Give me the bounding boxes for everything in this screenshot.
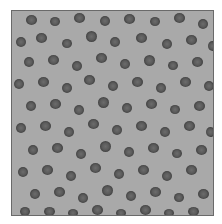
blood-cell	[28, 145, 38, 155]
blood-cell	[148, 143, 159, 153]
blood-cell	[140, 205, 151, 215]
blood-cell	[100, 16, 110, 26]
blood-cell	[126, 191, 136, 201]
blood-cell	[196, 145, 207, 155]
blood-cell	[102, 185, 113, 196]
blood-cell	[150, 17, 160, 26]
micrograph-image	[11, 10, 214, 216]
blood-cell	[188, 207, 199, 216]
blood-cell	[16, 37, 26, 47]
blood-cell	[44, 207, 55, 216]
blood-cell	[122, 103, 132, 113]
blood-cell	[78, 193, 88, 203]
blood-cell	[68, 209, 78, 216]
blood-cell	[146, 99, 157, 109]
blood-cell	[186, 35, 197, 45]
blood-cell	[160, 127, 170, 137]
blood-cell	[84, 75, 95, 85]
blood-cell	[14, 79, 24, 89]
blood-cell	[208, 41, 214, 51]
blood-cell	[20, 207, 30, 216]
blood-cell	[30, 189, 40, 199]
blood-cell	[174, 13, 185, 23]
blood-cell	[204, 81, 214, 91]
blood-cell	[74, 13, 85, 23]
blood-cell	[150, 187, 161, 197]
blood-cell	[66, 171, 76, 181]
blood-cell	[52, 143, 63, 153]
blood-cell	[170, 105, 180, 114]
blood-cell	[180, 77, 191, 87]
blood-cell	[174, 193, 184, 202]
blood-cell	[132, 77, 143, 87]
blood-cell	[38, 77, 49, 87]
blood-cell	[136, 121, 147, 131]
blood-cell	[62, 39, 72, 48]
blood-cell	[26, 101, 36, 111]
blood-cell	[198, 19, 208, 29]
blood-cell	[156, 83, 166, 93]
blood-cell	[16, 123, 26, 133]
blood-cell	[194, 101, 205, 111]
blood-cell	[112, 125, 122, 135]
blood-cell	[120, 59, 130, 69]
blood-cell	[116, 209, 126, 216]
blood-cell	[36, 33, 47, 43]
blood-cell	[54, 187, 65, 197]
blood-cell	[186, 165, 197, 175]
blood-cell	[90, 163, 101, 173]
blood-cell	[96, 53, 107, 63]
blood-cell	[76, 149, 86, 159]
blood-cell	[40, 121, 51, 131]
blood-cell	[124, 14, 135, 24]
blood-cell	[162, 39, 172, 49]
blood-cell	[42, 165, 53, 175]
blood-cell	[172, 149, 182, 158]
blood-cell	[72, 61, 82, 71]
blood-cell	[18, 167, 28, 177]
blood-cell	[206, 127, 214, 137]
blood-cell	[192, 57, 203, 67]
blood-cell	[50, 99, 61, 109]
blood-cell	[162, 171, 172, 181]
blood-cell	[144, 55, 155, 66]
blood-cell	[24, 57, 34, 67]
blood-cell	[184, 121, 195, 131]
blood-cell	[98, 97, 109, 108]
blood-cell	[136, 33, 147, 43]
blood-cell	[26, 15, 37, 25]
blood-cell	[114, 169, 124, 179]
blood-cell	[86, 31, 97, 42]
blood-cell	[198, 189, 209, 199]
blood-cell	[110, 37, 120, 47]
blood-cell	[100, 141, 111, 152]
blood-cell	[92, 205, 103, 215]
blood-cell	[164, 209, 174, 216]
blood-cell	[74, 105, 84, 115]
blood-cell	[88, 119, 99, 129]
blood-cell	[108, 81, 118, 91]
blood-cell	[50, 17, 60, 26]
blood-cell	[62, 83, 72, 93]
blood-cell	[168, 61, 178, 70]
blood-cell	[48, 55, 59, 65]
blood-cell	[138, 165, 149, 175]
blood-cell	[124, 147, 134, 157]
blood-cell	[64, 127, 74, 137]
